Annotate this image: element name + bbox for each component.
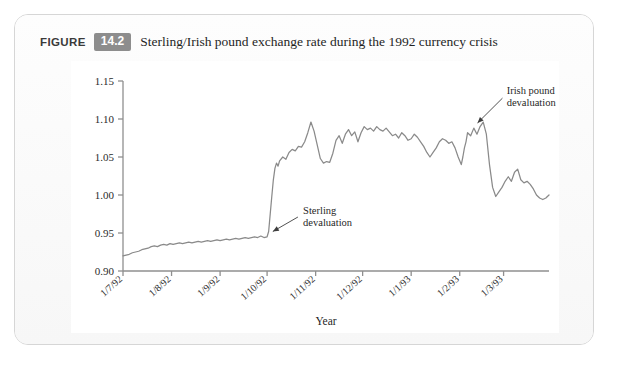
x-tick-label: 1/2/93 bbox=[435, 273, 461, 298]
x-tick-label: 1/11/92 bbox=[287, 273, 317, 301]
x-tick-label: 1/7/92 bbox=[98, 273, 124, 298]
x-tick-label: 1/10/92 bbox=[238, 273, 268, 302]
x-tick-label: 1/1/93 bbox=[386, 273, 412, 298]
annotation-label-line1: Irish pound bbox=[507, 85, 556, 96]
figure-screenshot: FIGURE 14.2 Sterling/Irish pound exchang… bbox=[0, 0, 629, 368]
x-tick-label: 1/3/93 bbox=[479, 273, 505, 298]
figure-label: FIGURE bbox=[40, 36, 86, 48]
figure-caption-text: Sterling/Irish pound exchange rate durin… bbox=[140, 34, 498, 50]
y-tick-label: 0.90 bbox=[95, 265, 115, 277]
annotation-label-line2: devaluation bbox=[303, 217, 353, 228]
figure-caption-row: FIGURE 14.2 Sterling/Irish pound exchang… bbox=[40, 32, 498, 52]
x-axis-title: Year bbox=[315, 315, 336, 327]
figure-card: FIGURE 14.2 Sterling/Irish pound exchang… bbox=[14, 14, 594, 345]
figure-number-badge: 14.2 bbox=[94, 33, 131, 51]
y-tick-label: 1.10 bbox=[95, 113, 115, 125]
y-tick-label: 0.95 bbox=[95, 227, 115, 239]
x-tick-label: 1/12/92 bbox=[334, 273, 364, 302]
y-tick-label: 1.05 bbox=[95, 151, 115, 163]
x-tick-label: 1/9/92 bbox=[195, 273, 221, 298]
annotation-label-line1: Sterling bbox=[303, 205, 337, 216]
y-tick-label: 1.15 bbox=[95, 75, 115, 87]
x-tick-label: 1/8/92 bbox=[147, 273, 173, 298]
line-chart: 0.900.951.001.051.101.151/7/921/8/921/9/… bbox=[71, 61, 559, 333]
data-series-line bbox=[123, 122, 549, 256]
annotation-arrow-head bbox=[273, 226, 279, 231]
y-tick-label: 1.00 bbox=[95, 189, 115, 201]
annotation-label-line2: devaluation bbox=[507, 97, 557, 108]
chart-plot-panel: 0.900.951.001.051.101.151/7/921/8/921/9/… bbox=[71, 61, 559, 333]
